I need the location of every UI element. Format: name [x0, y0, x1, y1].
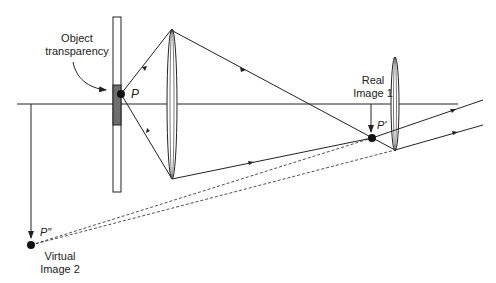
point-p-prime-label: P' — [377, 119, 386, 131]
label-line: Real — [338, 74, 408, 87]
point-p-dot — [117, 90, 125, 98]
point-p-label: P — [131, 87, 139, 101]
lens-1 — [167, 29, 177, 179]
virtual-ray-1 — [31, 138, 372, 245]
point-p-double-prime-dot — [27, 241, 35, 249]
lens-2 — [391, 57, 399, 151]
virtual-ray-2 — [31, 150, 395, 245]
label-line: Object — [32, 32, 122, 45]
virtual-image-2-label: Virtual Image 2 — [30, 250, 90, 276]
ray-upper-in — [121, 30, 171, 94]
ray-exit-2 — [395, 125, 483, 150]
ray-lower-in — [121, 94, 172, 179]
label-line: Image 1 — [338, 87, 408, 100]
ray-exit-1 — [372, 100, 483, 138]
ray-lower-mid — [172, 138, 372, 179]
label-line: Image 2 — [30, 263, 90, 276]
object-pointer-arrow — [73, 62, 106, 90]
point-p-double-prime-label: P" — [40, 226, 51, 238]
real-image-1-label: Real Image 1 — [338, 74, 408, 100]
label-line: transparency — [32, 45, 122, 58]
label-line: Virtual — [30, 250, 90, 263]
point-p-prime-dot — [368, 134, 376, 142]
object-transparency-label: Object transparency — [32, 32, 122, 58]
